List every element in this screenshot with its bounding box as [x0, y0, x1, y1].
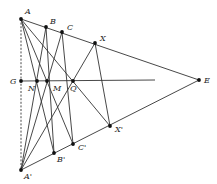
label-a-prime: A' — [23, 172, 32, 181]
label-g: G — [10, 77, 17, 86]
label-m: M — [52, 84, 62, 93]
point-e — [197, 78, 201, 82]
label-q: Q — [70, 84, 77, 93]
segment-g-end — [21, 80, 155, 81]
point-b-prime — [52, 151, 56, 155]
segments-layer — [21, 19, 199, 170]
point-a-prime — [19, 168, 23, 172]
point-x-prime — [108, 124, 112, 128]
points-layer — [19, 17, 201, 172]
point-m — [45, 79, 49, 83]
label-x: X — [99, 34, 106, 43]
label-n: N — [27, 84, 36, 93]
geometric-diagram: ABCXEGNMQA'B'C'X' — [0, 0, 217, 184]
label-c-prime: C' — [78, 143, 86, 152]
point-n — [35, 79, 39, 83]
point-c — [60, 30, 64, 34]
labels-layer: ABCXEGNMQA'B'C'X' — [10, 7, 210, 181]
point-g — [19, 79, 23, 83]
segment-x-x-prime — [95, 43, 110, 126]
label-e: E — [203, 76, 210, 85]
label-b: B — [49, 17, 56, 26]
label-a: A — [24, 7, 31, 16]
point-a — [19, 17, 23, 21]
label-b-prime: B' — [56, 155, 65, 164]
label-x-prime: X' — [114, 125, 123, 134]
point-b — [44, 25, 48, 29]
label-c: C — [67, 23, 73, 32]
point-q — [71, 79, 75, 83]
point-c-prime — [71, 142, 75, 146]
point-x — [93, 41, 97, 45]
